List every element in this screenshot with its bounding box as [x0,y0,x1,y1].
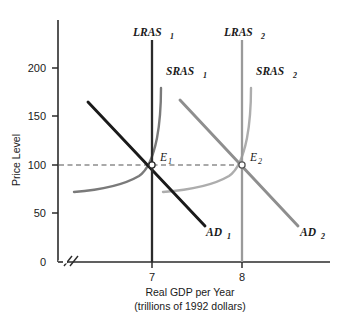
axes [58,20,330,266]
label-sras2-subscript: 2 [292,71,297,80]
x-tick-label-8: 8 [239,271,245,283]
label-ad2: AD 2 [299,226,325,241]
axis-break-icon [58,256,78,266]
label-e2-subscript: 2 [258,157,262,166]
chart-canvas: 200 150 100 50 0 7 8 Price Level Real GD… [0,0,337,320]
x-tick-label-7: 7 [149,271,155,283]
y-tick-label-50: 50 [34,207,46,219]
label-e1: E 1 [159,151,172,166]
label-ad2-text: AD [299,226,317,238]
curve-sras2 [163,88,251,192]
label-sras1-subscript: 1 [203,71,207,80]
y-axis-title: Price Level [10,134,22,186]
equilibrium-marker-e2 [239,162,245,168]
x-axis-title: Real GDP per Year [145,286,235,298]
label-lras1-text: LRAS [132,26,162,38]
as-ad-shift-figure: 200 150 100 50 0 7 8 Price Level Real GD… [0,0,337,320]
label-lras2-text: LRAS [223,26,253,38]
label-ad2-subscript: 2 [320,232,325,241]
y-tick-label-0: 0 [40,256,46,268]
label-e1-text: E [159,151,167,163]
equilibrium-marker-e1 [149,162,155,168]
label-e1-subscript: 1 [168,157,172,166]
label-e2-text: E [249,151,257,163]
y-tick-label-200: 200 [28,62,46,74]
label-lras2: LRAS 2 [223,26,265,41]
curve-ad1 [88,102,205,226]
curve-sras1 [74,88,161,192]
label-ad1-text: AD [205,226,223,238]
y-tick-label-100: 100 [28,159,46,171]
label-sras1: SRAS 1 [166,65,207,80]
label-ad1: AD 1 [205,226,231,241]
label-ad1-subscript: 1 [227,232,231,241]
y-tick-label-150: 150 [28,110,46,122]
y-axis-ticks: 200 150 100 50 0 [28,62,58,268]
label-lras2-subscript: 2 [260,32,265,41]
label-sras1-text: SRAS [166,65,194,77]
label-sras2-text: SRAS [256,65,284,77]
x-axis-ticks: 7 8 [149,262,245,283]
label-sras2: SRAS 2 [256,65,297,80]
label-lras1: LRAS 1 [132,26,174,41]
label-lras1-subscript: 1 [170,32,174,41]
x-axis-subtitle: (trillions of 1992 dollars) [134,300,245,312]
label-e2: E 2 [249,151,262,166]
